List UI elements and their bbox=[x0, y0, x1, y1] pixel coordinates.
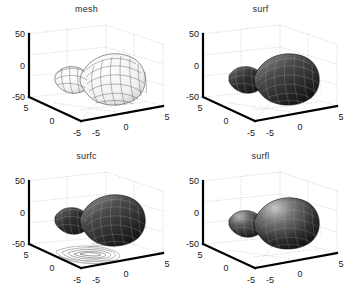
ztick-neg50: -50 bbox=[12, 239, 25, 249]
ytick-5: 5 bbox=[23, 103, 28, 113]
subplot-surfc[interactable]: surfc bbox=[0, 147, 173, 293]
ztick-neg50: -50 bbox=[186, 92, 199, 102]
ztick-0: 0 bbox=[20, 208, 25, 218]
ztick-0: 0 bbox=[20, 61, 25, 71]
surface-lit-surfl bbox=[229, 198, 320, 250]
xtick-0: 0 bbox=[123, 269, 128, 279]
xtick-5: 5 bbox=[338, 112, 343, 122]
ytick-neg5: -5 bbox=[247, 275, 255, 285]
ytick-0: 0 bbox=[223, 263, 228, 273]
ytick-5: 5 bbox=[197, 103, 202, 113]
plot-canvas-surfl: 50 0 -50 5 0 -5 -5 0 5 bbox=[174, 157, 347, 293]
ztick-50: 50 bbox=[15, 29, 25, 39]
ztick-0: 0 bbox=[194, 61, 199, 71]
ztick-0: 0 bbox=[194, 208, 199, 218]
xtick-neg5: -5 bbox=[266, 275, 274, 285]
surface-shaded-surfc bbox=[55, 195, 146, 247]
plot-canvas-surf: 50 0 -50 5 0 -5 -5 0 5 bbox=[174, 10, 347, 146]
plot-canvas-surfc: 50 0 -50 5 0 -5 -5 0 5 bbox=[0, 157, 173, 293]
ytick-neg5: -5 bbox=[247, 128, 255, 138]
ytick-5: 5 bbox=[23, 250, 28, 260]
xtick-0: 0 bbox=[123, 122, 128, 132]
ytick-0: 0 bbox=[49, 116, 54, 126]
xtick-5: 5 bbox=[164, 259, 169, 269]
ytick-5: 5 bbox=[197, 250, 202, 260]
subplot-surfl[interactable]: surfl bbox=[174, 147, 347, 293]
ytick-neg5: -5 bbox=[73, 275, 81, 285]
subplot-surf[interactable]: surf bbox=[174, 0, 347, 146]
xtick-0: 0 bbox=[297, 122, 302, 132]
surface-shaded-surf bbox=[229, 54, 320, 106]
subplot-mesh[interactable]: mesh bbox=[0, 0, 173, 146]
surface-wireframe-mesh bbox=[55, 54, 146, 106]
xtick-neg5: -5 bbox=[92, 128, 100, 138]
ytick-neg5: -5 bbox=[73, 128, 81, 138]
ztick-neg50: -50 bbox=[12, 92, 25, 102]
ztick-50: 50 bbox=[15, 176, 25, 186]
ztick-50: 50 bbox=[189, 29, 199, 39]
xtick-neg5: -5 bbox=[92, 275, 100, 285]
plot-canvas-mesh: 50 0 -50 5 0 -5 -5 0 5 bbox=[0, 10, 173, 146]
ztick-50: 50 bbox=[189, 176, 199, 186]
matlab-figure-window: mesh bbox=[0, 0, 347, 293]
ztick-neg50: -50 bbox=[186, 239, 199, 249]
xtick-0: 0 bbox=[297, 269, 302, 279]
xtick-neg5: -5 bbox=[266, 128, 274, 138]
xtick-5: 5 bbox=[338, 259, 343, 269]
xtick-5: 5 bbox=[164, 112, 169, 122]
ytick-0: 0 bbox=[223, 116, 228, 126]
ytick-0: 0 bbox=[49, 263, 54, 273]
